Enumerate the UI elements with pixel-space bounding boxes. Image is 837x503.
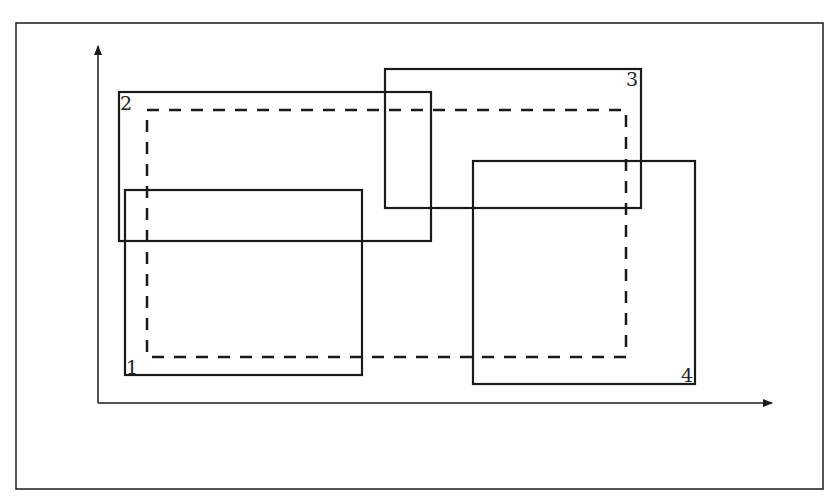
dashed-bounding-rect <box>147 110 626 357</box>
rectangles-group: 1234 <box>119 68 695 386</box>
rectangle-1 <box>125 190 362 375</box>
rectangle-label-3: 3 <box>626 68 638 90</box>
rectangle-label-1: 1 <box>126 356 138 378</box>
rectangle-4 <box>473 161 695 384</box>
rectangle-label-2: 2 <box>120 92 132 114</box>
rectangle-label-4: 4 <box>681 364 693 386</box>
diagram-canvas: 1234 <box>0 0 837 503</box>
rectangle-3 <box>385 69 641 208</box>
